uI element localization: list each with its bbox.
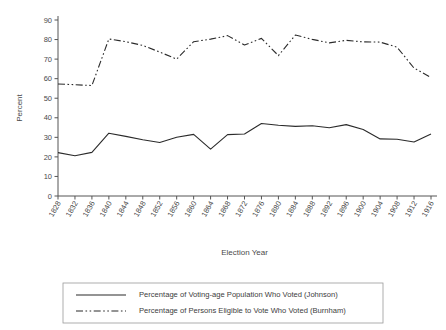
- x-tick-label: 1852: [149, 200, 165, 219]
- y-tick-label: 20: [44, 153, 52, 162]
- x-axis-title: Election Year: [221, 248, 268, 257]
- x-tick-label: 1864: [199, 200, 215, 219]
- y-tick-label: 70: [44, 55, 52, 64]
- series-line-1: [58, 123, 431, 155]
- x-tick-label: 1912: [403, 200, 419, 219]
- y-tick-group: 0102030405060708090: [44, 16, 58, 201]
- x-tick-label: 1896: [335, 200, 351, 219]
- x-tick-label: 1868: [216, 200, 232, 219]
- x-tick-label: 1876: [250, 200, 266, 219]
- x-tick-label: 1892: [318, 200, 334, 219]
- y-tick-label: 30: [44, 133, 52, 142]
- x-tick-label: 1836: [81, 200, 97, 219]
- chart-container: 0102030405060708090 Percent 182818321836…: [0, 0, 446, 330]
- y-axis-group: 0102030405060708090 Percent: [15, 16, 58, 201]
- x-tick-label: 1844: [115, 200, 131, 219]
- y-tick-label: 50: [44, 94, 52, 103]
- x-tick-label: 1908: [386, 200, 402, 219]
- x-tick-label: 1828: [47, 200, 63, 219]
- y-tick-label: 10: [44, 172, 52, 181]
- x-tick-label: 1900: [352, 200, 368, 219]
- x-tick-label: 1888: [301, 200, 317, 219]
- x-tick-group: 1828183218361840184418481852185618601864…: [47, 196, 436, 218]
- x-tick-label: 1840: [98, 200, 114, 219]
- x-tick-label: 1860: [182, 200, 198, 219]
- series-group: [58, 35, 431, 156]
- y-tick-label: 80: [44, 35, 52, 44]
- x-tick-label: 1848: [132, 200, 148, 219]
- chart-legend: Percentage of Voting-age Population Who …: [63, 283, 383, 323]
- y-tick-label: 90: [44, 16, 52, 25]
- legend-label-2: Percentage of Persons Eligible to Vote W…: [139, 306, 346, 315]
- y-tick-label: 0: [48, 192, 52, 201]
- y-axis-title: Percent: [15, 93, 24, 121]
- x-tick-label: 1856: [165, 200, 181, 219]
- x-axis-group: 1828183218361840184418481852185618601864…: [47, 196, 437, 257]
- x-tick-label: 1884: [284, 200, 300, 219]
- x-tick-label: 1916: [420, 200, 436, 219]
- x-tick-label: 1904: [369, 200, 385, 219]
- x-tick-label: 1872: [233, 200, 249, 219]
- line-chart: 0102030405060708090 Percent 182818321836…: [0, 0, 446, 330]
- legend-border: [63, 283, 383, 323]
- series-line-2: [58, 35, 431, 85]
- y-tick-label: 40: [44, 113, 52, 122]
- x-tick-label: 1832: [64, 200, 80, 219]
- legend-label-1: Percentage of Voting-age Population Who …: [139, 290, 338, 299]
- x-tick-label: 1880: [267, 200, 283, 219]
- y-tick-label: 60: [44, 74, 52, 83]
